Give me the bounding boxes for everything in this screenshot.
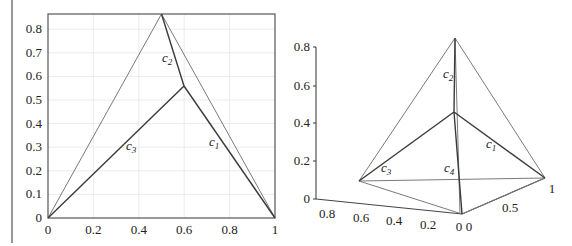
tetrahedron-outline <box>359 38 545 214</box>
y-tick: 0.8 <box>26 21 42 36</box>
right-plot: 0 0.2 0.4 0.6 0.8 0.8 0.6 0.4 0.2 0 0 0.… <box>294 38 556 234</box>
segment-c2 <box>454 38 455 112</box>
segment-c3 <box>48 86 184 218</box>
x-tick: 0.8 <box>319 206 335 221</box>
left-plot: 0 0.1 0.2 0.3 0.4 0.5 0.6 0.7 0.8 0 0.2 … <box>26 14 279 237</box>
y-tick: 0.1 <box>26 186 42 201</box>
label-c3: c3 <box>381 160 392 177</box>
figure: 0 0.1 0.2 0.3 0.4 0.5 0.6 0.7 0.8 0 0.2 … <box>0 0 572 246</box>
y-tick: 0 <box>36 210 43 225</box>
x-tick: 0.4 <box>386 213 403 228</box>
label-c1: c1 <box>209 134 219 151</box>
label-c1: c1 <box>486 136 496 153</box>
z-tick: 0.2 <box>294 153 310 168</box>
y-tick: 0.5 <box>502 200 518 215</box>
left-grid <box>48 14 275 218</box>
label-c4: c4 <box>444 160 455 177</box>
x-tick: 1 <box>272 222 279 237</box>
x-tick: 0.6 <box>176 222 193 237</box>
segment-c3 <box>359 112 454 181</box>
left-plot-frame <box>48 14 275 218</box>
y-tick: 1 <box>549 181 556 196</box>
label-c3: c3 <box>126 138 137 155</box>
x-tick: 0.2 <box>85 222 101 237</box>
y-tick: 0.6 <box>26 68 43 83</box>
x-tick: 0.6 <box>353 210 370 225</box>
z-tick: 0 <box>304 191 311 206</box>
y-tick: 0.7 <box>26 45 43 60</box>
y-tick: 0.5 <box>26 92 42 107</box>
y-tick: 0 <box>466 219 473 234</box>
z-tick: 0.4 <box>294 115 311 130</box>
y-tick: 0.3 <box>26 139 42 154</box>
x-tick: 0.8 <box>221 222 237 237</box>
y-tick: 0.4 <box>26 116 43 131</box>
z-tick: 0.8 <box>294 39 310 54</box>
z-tick: 0.6 <box>294 78 311 93</box>
x-tick: 0.4 <box>131 222 148 237</box>
label-c2: c2 <box>443 66 454 83</box>
simplex-outline <box>48 14 275 218</box>
segment-c1 <box>454 112 545 178</box>
x-tick: 0 <box>456 219 463 234</box>
y-tick: 0.2 <box>26 163 42 178</box>
x-tick: 0.2 <box>420 217 436 232</box>
x-tick: 0 <box>45 222 52 237</box>
